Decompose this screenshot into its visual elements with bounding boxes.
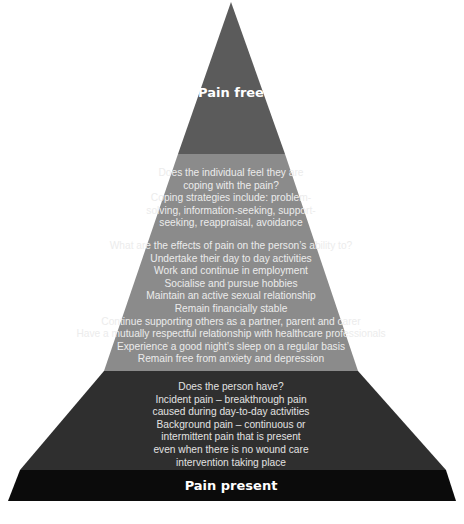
tier-text-line: Continue supporting others as a partner,… <box>101 316 361 327</box>
tier-text-line: Work and continue in employment <box>154 265 308 276</box>
tier-text-line: What are the effects of pain on the pers… <box>110 240 353 251</box>
pain-present-label: Pain present <box>185 478 278 493</box>
tier-text-line: intermittent pain that is present <box>161 431 300 442</box>
tier-text-line: seeking, reappraisal, avoidance <box>159 217 303 228</box>
tier-text-line: Undertake their day to day activities <box>150 253 311 264</box>
tier-text-line: caused during day-to-day activities <box>153 406 310 417</box>
tier-text-line: Incident pain – breakthrough pain <box>155 394 306 405</box>
tier-text-line: even when there is no wound care <box>153 444 309 455</box>
tier-text-line: intervention taking place <box>176 457 286 468</box>
tier-text-line: Does the person have? <box>178 381 284 392</box>
tier-text-line: Have a mutually respectful relationship … <box>76 328 385 339</box>
pyramid-tier-pain-free <box>178 2 285 154</box>
tier-text-line: coping with the pain? <box>183 180 279 191</box>
pain-free-label: Pain free <box>198 85 264 100</box>
tier-text-line: Does the individual feel they are <box>159 167 304 178</box>
tier-text-line: Experience a good night’s sleep on a reg… <box>117 341 345 352</box>
tier-text-line: Background pain – continuous or <box>157 419 307 430</box>
tier-text-line: Coping strategies include: problem- <box>151 192 311 203</box>
pain-pyramid-diagram: Pain free Does the individual feel they … <box>0 0 464 524</box>
coping-text-block: Does the individual feel they arecoping … <box>146 167 315 228</box>
tier-text-line: solving, information-seeking, support- <box>146 205 315 216</box>
tier-text-line: Remain free from anxiety and depression <box>138 353 324 364</box>
tier-text-line: Socialise and pursue hobbies <box>164 278 297 289</box>
effects-text-block: What are the effects of pain on the pers… <box>76 240 385 364</box>
pain-types-text-block: Does the person have?Incident pain – bre… <box>153 381 310 468</box>
tier-text-line: Maintain an active sexual relationship <box>146 290 316 301</box>
tier-text-line: Remain financially stable <box>175 303 288 314</box>
